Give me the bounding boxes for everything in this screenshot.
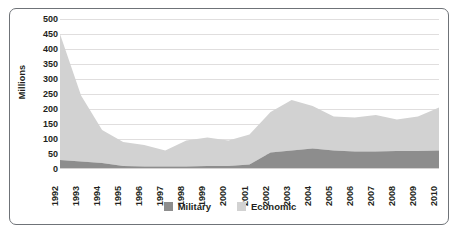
- legend-swatch-icon: [237, 202, 246, 211]
- y-axis-tick-label: 150: [27, 120, 58, 129]
- legend-entry: Economic: [237, 201, 296, 212]
- legend-label: Military: [178, 201, 211, 212]
- legend-label: Economic: [251, 201, 296, 212]
- y-axis-title: Millions: [17, 52, 27, 112]
- y-axis-tick-label: 100: [27, 135, 58, 144]
- x-axis-tick-label: 2010: [422, 170, 456, 204]
- legend-entry: Military: [164, 201, 211, 212]
- plot-area: [60, 19, 439, 169]
- x-axis-tick-labels: 1992199319941995199619971998199920002001…: [60, 170, 439, 204]
- y-axis-tick-label: 350: [27, 60, 58, 69]
- y-axis-tick-label: 400: [27, 45, 58, 54]
- chart-frame: Millions 500450400350300250200150100500 …: [9, 8, 449, 225]
- y-axis-tick-label: 250: [27, 90, 58, 99]
- chart-legend: MilitaryEconomic: [10, 201, 450, 212]
- y-axis-tick-label: 300: [27, 75, 58, 84]
- y-axis-tick-label: 200: [27, 105, 58, 114]
- stacked-area-series: [60, 19, 439, 169]
- y-axis-tick-label: 50: [27, 150, 58, 159]
- legend-swatch-icon: [164, 202, 173, 211]
- area-series-economic: [60, 34, 439, 167]
- y-axis-tick-label: 450: [27, 30, 58, 39]
- x-axis-line: [60, 168, 439, 169]
- y-axis-tick-label: 500: [27, 15, 58, 24]
- y-axis-tick-labels: 500450400350300250200150100500: [27, 19, 58, 169]
